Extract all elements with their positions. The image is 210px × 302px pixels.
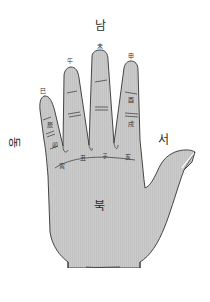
hand-outline xyxy=(40,50,195,268)
branch-in-label: 寅 xyxy=(59,163,65,169)
direction-east-label: 동 xyxy=(8,137,20,148)
branch-o-label: 午 xyxy=(67,58,73,64)
hand-drawing xyxy=(0,0,210,302)
direction-north-label: 북 xyxy=(94,200,105,212)
branch-mi-label: 未 xyxy=(97,43,103,49)
hand-diagram: 남 북 동 서 巳 午 未 申 酉 戌 亥 子 丑 寅 卯 辰 xyxy=(0,0,210,302)
branch-sin-label: 申 xyxy=(128,53,134,59)
branch-myo-label: 卯 xyxy=(52,142,58,148)
direction-west-label: 서 xyxy=(158,134,169,146)
branch-sul-label: 戌 xyxy=(128,121,134,127)
direction-south-label: 남 xyxy=(95,20,106,32)
branch-si-label: 巳 xyxy=(40,88,46,94)
branch-yu-label: 酉 xyxy=(128,97,134,103)
branch-chuk-label: 丑 xyxy=(80,155,86,161)
branch-hae-label: 亥 xyxy=(125,154,131,160)
branch-ja-label: 子 xyxy=(102,153,108,159)
branch-jin-label: 辰 xyxy=(47,122,53,128)
